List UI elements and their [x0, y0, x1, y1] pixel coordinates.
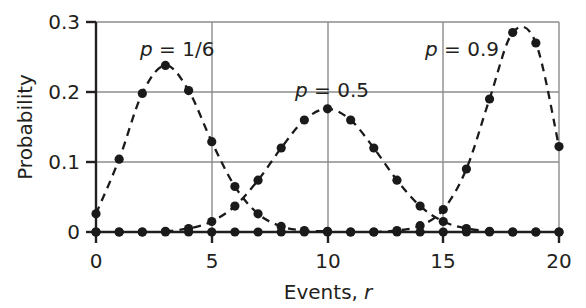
data-point: [300, 115, 309, 124]
data-point: [554, 142, 563, 151]
data-point: [230, 227, 239, 236]
data-point: [323, 227, 332, 236]
series-annotation-p16-value: = 1/6: [153, 37, 215, 61]
data-point: [462, 164, 471, 173]
y-axis: [86, 22, 96, 232]
data-point: [161, 61, 170, 70]
data-point: [485, 227, 494, 236]
data-point: [531, 227, 540, 236]
data-point: [508, 227, 517, 236]
x-axis-title-italic: r: [364, 280, 374, 304]
data-point: [439, 217, 448, 226]
data-point: [392, 176, 401, 185]
y-tick-label-0.3: 0.3: [48, 10, 80, 34]
data-point: [184, 86, 193, 95]
x-tick-label-10: 10: [315, 249, 340, 273]
y-axis-title: Probability: [13, 74, 37, 180]
data-point: [91, 209, 100, 218]
data-point: [369, 227, 378, 236]
data-point: [230, 182, 239, 191]
x-tick-label-0: 0: [90, 249, 103, 273]
data-point: [115, 155, 124, 164]
data-point: [554, 227, 563, 236]
x-tick-label-20: 20: [546, 249, 571, 273]
data-point: [531, 38, 540, 47]
data-point: [323, 104, 332, 113]
data-point: [392, 226, 401, 235]
vertical-gridlines: [212, 22, 559, 232]
data-point: [207, 227, 216, 236]
x-axis-title-main: Events,: [284, 280, 358, 304]
data-point: [462, 224, 471, 233]
data-point: [207, 217, 216, 226]
data-point: [369, 143, 378, 152]
data-point: [300, 227, 309, 236]
data-point: [91, 227, 100, 236]
series-annotation-p16-symbol: p: [139, 37, 153, 61]
data-point: [253, 209, 262, 218]
series-annotation-p05: p = 0.5: [294, 78, 369, 102]
data-point: [416, 221, 425, 230]
series-annotation-p05-symbol: p: [294, 78, 308, 102]
y-tick-label-0.2: 0.2: [48, 80, 80, 104]
data-point: [439, 205, 448, 214]
x-tick-label-5: 5: [206, 249, 219, 273]
data-point: [161, 227, 170, 236]
data-point: [230, 202, 239, 211]
data-point: [416, 202, 425, 211]
data-point: [346, 227, 355, 236]
data-point: [439, 227, 448, 236]
data-point: [508, 28, 517, 37]
data-point: [277, 143, 286, 152]
data-point: [253, 176, 262, 185]
data-point: [138, 227, 147, 236]
y-tick-label-0.1: 0.1: [48, 150, 80, 174]
x-tick-label-15: 15: [430, 249, 455, 273]
data-point: [115, 227, 124, 236]
series-annotation-p09-symbol: p: [424, 37, 438, 61]
data-point: [277, 227, 286, 236]
series-annotation-p05-value: = 0.5: [308, 78, 369, 102]
chart-canvas: 0.3 0.2 0.1 0 0 5 10 15 20 Events,r Prob…: [0, 0, 586, 308]
data-point: [138, 89, 147, 98]
data-point: [207, 137, 216, 146]
series-annotation-p16: p = 1/6: [139, 37, 214, 61]
data-point: [485, 94, 494, 103]
data-point: [346, 115, 355, 124]
x-axis-title: Events,r: [284, 280, 374, 304]
series-annotation-p09-value: = 0.9: [438, 37, 499, 61]
data-point: [184, 227, 193, 236]
binomial-distribution-figure: 0.3 0.2 0.1 0 0 5 10 15 20 Events,r Prob…: [0, 0, 586, 308]
y-tick-label-0: 0: [67, 220, 80, 244]
series-annotation-p09: p = 0.9: [424, 37, 499, 61]
data-point: [253, 227, 262, 236]
